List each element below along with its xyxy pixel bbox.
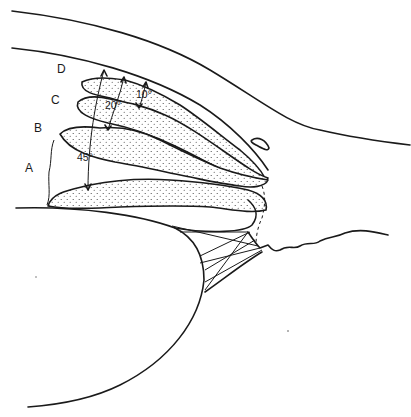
label-b: B: [34, 121, 42, 135]
label-a: A: [25, 161, 33, 175]
angle-label-45: 45°: [77, 151, 93, 163]
small-oval: [251, 138, 269, 149]
arrow-45-top: [101, 70, 107, 76]
angle-label-20: 20°: [105, 99, 121, 111]
label-c: C: [51, 93, 60, 107]
label-d: D: [57, 62, 66, 76]
large-lobe: [16, 208, 204, 407]
outer-contour: [12, 11, 410, 145]
speck: [287, 330, 289, 332]
speck: [35, 276, 36, 277]
angle-label-10: 10°: [136, 88, 152, 100]
diagram-canvas: D C B A 10° 20° 45°: [0, 0, 411, 417]
wavy-contour: [248, 231, 388, 251]
lower-ligament-edge: [205, 252, 262, 292]
bracket-a: [47, 140, 54, 205]
